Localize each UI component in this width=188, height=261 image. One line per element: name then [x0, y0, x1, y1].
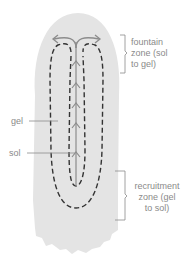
fountain-zone-bracket — [120, 35, 127, 73]
sol-label: sol — [9, 148, 21, 159]
recruitment-zone-line-1: recruitment — [128, 181, 186, 192]
fountain-zone-line-3: to gel) — [131, 59, 168, 70]
fountain-zone-line-2: zone (sol — [131, 48, 168, 59]
gel-label: gel — [11, 116, 23, 127]
recruitment-zone-line-3: to sol) — [128, 203, 186, 214]
recruitment-zone-line-2: zone (gel — [128, 192, 186, 203]
recruitment-zone-label: recruitment zone (gel to sol) — [128, 181, 186, 214]
fountain-zone-label: fountain zone (sol to gel) — [131, 37, 168, 70]
fountain-zone-line-1: fountain — [131, 37, 168, 48]
pseudopod-diagram: gel sol fountain zone (sol to gel) recru… — [0, 0, 188, 261]
